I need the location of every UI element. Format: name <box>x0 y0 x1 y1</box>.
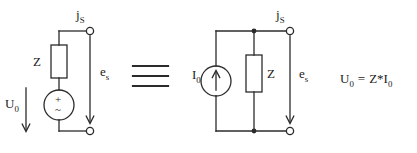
thevenin-impedance-label: Z <box>33 55 41 68</box>
thevenin-terminal-top <box>86 27 93 34</box>
equivalence-symbol-group <box>133 66 168 86</box>
circuit-diagram-figure: jS Z U0 es + ~ I0 Z jS es U0=Z*I0 <box>0 0 417 153</box>
thevenin-terminal-bottom <box>86 127 93 134</box>
norton-current-source-label: I0 <box>192 68 201 84</box>
thevenin-impedance-box <box>51 45 67 78</box>
voltage-source-wave-sign: ~ <box>55 104 61 115</box>
norton-emf-label: es <box>299 67 308 83</box>
thevenin-current-label: jS <box>76 8 85 24</box>
equivalence-equation: U0=Z*I0 <box>340 72 392 88</box>
thevenin-emf-label: es <box>100 65 109 81</box>
norton-current-label: jS <box>276 8 285 24</box>
norton-impedance-label: Z <box>267 67 275 80</box>
thevenin-voltage-label: U0 <box>5 97 19 113</box>
norton-terminal-top <box>286 27 293 34</box>
thevenin-circuit-group <box>22 27 94 134</box>
norton-junction-dot-bottom <box>252 129 257 134</box>
norton-junction-dot-top <box>252 29 257 34</box>
norton-circuit-group <box>201 27 294 134</box>
norton-terminal-bottom <box>286 127 293 134</box>
norton-impedance-box <box>246 55 262 92</box>
